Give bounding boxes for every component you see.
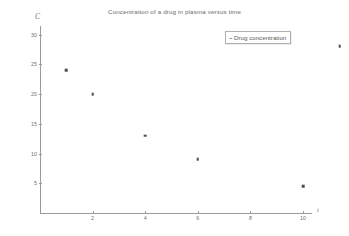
y-tick-mark [39, 94, 42, 95]
data-point [197, 158, 200, 161]
x-tick-label: 2 [91, 215, 94, 221]
legend-label: Drug concentration [234, 34, 286, 41]
data-point [91, 93, 94, 96]
y-tick-label: 5 [28, 180, 37, 186]
data-point [302, 185, 305, 188]
x-tick-label: 4 [144, 215, 147, 221]
data-point [144, 134, 147, 137]
y-tick-mark [39, 64, 42, 65]
legend-marker-icon: ~ [229, 35, 232, 41]
x-axis-label: t [317, 206, 319, 213]
y-tick-label: 25 [28, 61, 37, 67]
y-tick-mark [39, 35, 42, 36]
x-tick-label: 10 [300, 215, 306, 221]
y-tick-mark [39, 154, 42, 155]
y-tick-mark [39, 124, 42, 125]
y-tick-label: 10 [28, 151, 37, 157]
x-axis-line [40, 213, 312, 214]
x-tick-mark [198, 211, 199, 214]
y-tick-label: 20 [28, 91, 37, 97]
plot-area: 246810 51015202530 t C [0, 0, 349, 236]
x-tick-label: 8 [249, 215, 252, 221]
chart-figure: Concentration of a drug in plasma versus… [0, 0, 349, 236]
y-tick-mark [39, 183, 42, 184]
x-tick-label: 6 [196, 215, 199, 221]
x-tick-mark [93, 211, 94, 214]
x-tick-mark [303, 211, 304, 214]
y-axis-label: C [35, 12, 40, 21]
data-point [65, 69, 68, 72]
legend-box[interactable]: ~ Drug concentration [225, 31, 291, 44]
y-axis-line [40, 26, 41, 214]
data-point [339, 45, 342, 48]
y-tick-label: 15 [28, 121, 37, 127]
y-tick-label: 30 [28, 32, 37, 38]
x-tick-mark [250, 211, 251, 214]
x-tick-mark [145, 211, 146, 214]
